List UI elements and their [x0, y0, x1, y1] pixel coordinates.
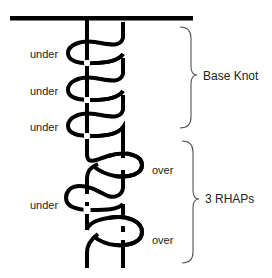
crossing-label-4: over	[152, 164, 173, 176]
brace-base-knot	[180, 27, 197, 128]
knot-diagram	[0, 0, 272, 278]
group-label-base-knot: Base Knot	[203, 70, 258, 82]
crossing-label-5: under	[30, 199, 58, 211]
crossing-label-1: under	[30, 48, 58, 60]
rhap-1	[87, 140, 142, 177]
brace-rhaps	[182, 141, 199, 263]
crossing-label-6: over	[152, 234, 173, 246]
base-loop-1	[68, 22, 123, 63]
group-label-rhaps: 3 RHAPs	[205, 193, 254, 205]
crossing-label-3: under	[30, 121, 58, 133]
top-bar	[10, 16, 193, 21]
crossing-label-2: under	[30, 85, 58, 97]
rhap-2	[66, 186, 123, 210]
